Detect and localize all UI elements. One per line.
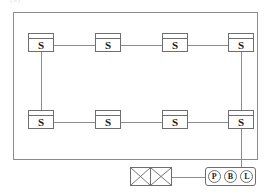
s-bottom-4[interactable]: S [228,110,254,129]
s-top-4[interactable]: S [228,33,254,52]
link-bottom-3-4 [188,122,228,123]
switch-label: S [163,116,187,128]
switch-label: S [96,39,120,51]
switch-label: S [29,116,53,128]
pbl-device-group: PBL [205,167,256,186]
link-left-column [41,52,42,110]
link-top-2-3 [121,45,162,46]
s-top-1[interactable]: S [28,33,54,52]
s-top-2[interactable]: S [95,33,121,52]
switch-label: S [29,39,53,51]
link-bottom-2-3 [121,122,162,123]
cross-cell-left [131,168,151,185]
node-p[interactable]: P [208,170,221,183]
s-bottom-1[interactable]: S [28,110,54,129]
node-b[interactable]: B [224,170,237,183]
cross-cell-right [151,168,171,185]
node-l[interactable]: L [240,170,253,183]
link-bottom-1-2 [54,122,95,123]
link-right-column [241,52,242,110]
switch-label: S [96,116,120,128]
s-bottom-2[interactable]: S [95,110,121,129]
crossed-switch-box[interactable] [130,167,172,186]
s-bottom-3[interactable]: S [162,110,188,129]
link-top-3-4 [188,45,228,46]
link-top-1-2 [54,45,95,46]
link-xbox-to-pbl [172,177,205,178]
switch-label: S [229,116,253,128]
caption-artifact: (a) [10,0,20,4]
switch-label: S [229,39,253,51]
s-top-3[interactable]: S [162,33,188,52]
switch-label: S [163,39,187,51]
diagram-canvas: (a) SSSSSSSS PBL [0,0,274,196]
